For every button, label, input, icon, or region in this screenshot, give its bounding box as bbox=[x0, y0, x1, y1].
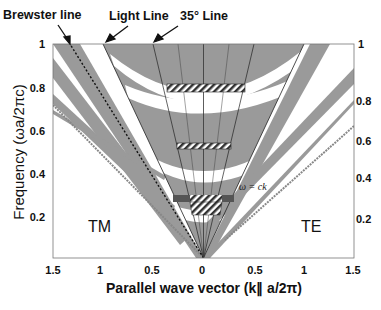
y-axis-left: 1 0.8 0.6 0.4 0.2 bbox=[30, 38, 46, 223]
y-tick-right-0.6: 0.6 bbox=[356, 135, 371, 147]
band-diagram-chart: 1 0.8 0.6 0.4 0.2 1 0.8 0.6 0.4 0.2 1.5 … bbox=[0, 0, 381, 310]
brewster-arrow-icon bbox=[64, 36, 70, 44]
x-tick-0.5: 0.5 bbox=[247, 264, 262, 276]
tm-label: TM bbox=[88, 218, 111, 235]
y-tick-right-0.8: 0.8 bbox=[356, 95, 371, 107]
y-tick-right-0.4: 0.4 bbox=[356, 172, 372, 184]
light-line-annotation: Light Line bbox=[109, 9, 169, 23]
y-tick-right-1: 1 bbox=[358, 38, 364, 50]
gap-marker-middle bbox=[177, 143, 231, 149]
x-axis-title: Parallel wave vector (k∥ a/2π) bbox=[106, 280, 302, 297]
omega-ck-annotation: ω = ck bbox=[239, 181, 267, 192]
deg35-arrow-icon bbox=[154, 34, 163, 42]
x-tick-0: 0 bbox=[199, 264, 205, 276]
deg35-annotation: 35° Line bbox=[180, 9, 228, 23]
y-tick-0.8: 0.8 bbox=[30, 82, 45, 94]
x-tick-neg1.5: 1.5 bbox=[45, 264, 60, 276]
light-line-arrow-icon bbox=[106, 34, 115, 42]
y-axis-right: 1 0.8 0.6 0.4 0.2 bbox=[356, 38, 372, 225]
gap-marker-lower bbox=[190, 202, 222, 215]
brewster-annotation: Brewster line bbox=[3, 8, 82, 22]
annotation-arrows bbox=[58, 25, 178, 44]
y-tick-0.2: 0.2 bbox=[30, 211, 45, 223]
x-tick-neg0.5: 0.5 bbox=[144, 264, 159, 276]
gap-marker-top bbox=[167, 84, 245, 92]
gap-marker-dark bbox=[190, 195, 222, 202]
x-tick-1: 1 bbox=[301, 264, 307, 276]
x-axis: 1.5 1 0.5 0 0.5 1 1.5 bbox=[45, 264, 360, 276]
y-axis-title: Frequency (ωa/2πc) bbox=[10, 84, 27, 219]
x-tick-1.5: 1.5 bbox=[345, 264, 360, 276]
y-tick-0.4: 0.4 bbox=[30, 168, 46, 180]
y-tick-0.6: 0.6 bbox=[30, 125, 45, 137]
y-tick-1: 1 bbox=[39, 38, 45, 50]
x-tick-neg1: 1 bbox=[97, 264, 103, 276]
te-label: TE bbox=[301, 218, 321, 235]
y-tick-right-0.2: 0.2 bbox=[356, 213, 371, 225]
